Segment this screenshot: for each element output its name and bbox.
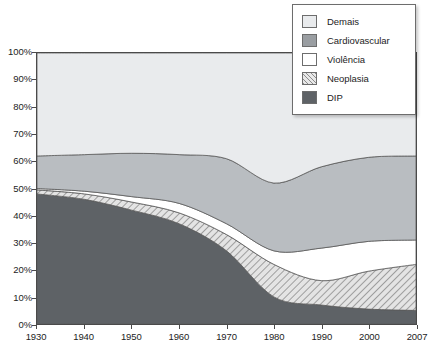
y-axis-tick-label: 40% — [0, 210, 32, 221]
y-axis-tick-label: 80% — [0, 101, 32, 112]
legend-swatch-icon — [302, 15, 317, 28]
legend-swatch-icon — [302, 91, 317, 104]
legend-item-label: DIP — [327, 92, 343, 103]
x-axis-tick-label: 1940 — [73, 331, 94, 342]
x-axis-tick-label: 2000 — [359, 331, 380, 342]
y-axis-tick-label: 50% — [0, 183, 32, 194]
y-axis-tick-label: 70% — [0, 128, 32, 139]
chart-legend: DemaisCardiovascularViolênciaNeoplasiaDI… — [292, 4, 416, 115]
y-axis-tick-label: 90% — [0, 73, 32, 84]
y-axis-tick-label: 20% — [0, 264, 32, 275]
legend-item: DIP — [302, 88, 407, 107]
x-axis-tick-label: 1950 — [121, 331, 142, 342]
x-axis-tick-label: 1980 — [264, 331, 285, 342]
x-axis-tick — [36, 325, 37, 329]
x-axis-tick — [84, 325, 85, 329]
x-axis-tick — [227, 325, 228, 329]
x-axis-tick — [369, 325, 370, 329]
x-axis-tick — [417, 325, 418, 329]
legend-swatch-icon — [302, 53, 317, 66]
x-axis-tick — [274, 325, 275, 329]
y-axis-tick-label: 60% — [0, 155, 32, 166]
legend-item: Cardiovascular — [302, 31, 407, 50]
legend-item-label: Violência — [327, 54, 365, 65]
x-axis-tick — [131, 325, 132, 329]
y-axis-tick-label: 10% — [0, 292, 32, 303]
x-axis-tick — [322, 325, 323, 329]
x-axis-tick-label: 1930 — [26, 331, 47, 342]
legend-item: Demais — [302, 12, 407, 31]
legend-item-label: Demais — [327, 16, 359, 27]
legend-item: Neoplasia — [302, 69, 407, 88]
legend-item-label: Cardiovascular — [327, 35, 390, 46]
x-axis-tick — [179, 325, 180, 329]
y-axis-tick-label: 30% — [0, 237, 32, 248]
x-axis-tick-label: 1990 — [311, 331, 332, 342]
legend-item: Violência — [302, 50, 407, 69]
x-axis-tick-label: 1960 — [169, 331, 190, 342]
legend-item-label: Neoplasia — [327, 73, 369, 84]
legend-swatch-icon — [302, 34, 317, 47]
x-axis-tick-label: 2007 — [407, 331, 428, 342]
legend-swatch-icon — [302, 72, 317, 85]
y-axis-tick-label: 0% — [0, 319, 32, 330]
x-axis-tick-label: 1970 — [216, 331, 237, 342]
chart-screenshot: 0%10%20%30%40%50%60%70%80%90%100% 193019… — [0, 0, 448, 359]
y-axis-tick-label: 100% — [0, 46, 32, 57]
